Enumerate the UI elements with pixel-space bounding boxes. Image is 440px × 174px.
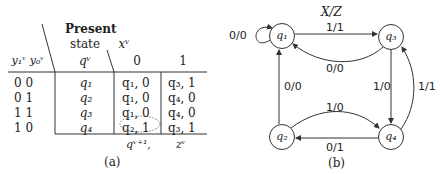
edge-label-q4-q2: 0/1 (326, 141, 344, 154)
node-q1-label: q₁ (272, 29, 292, 42)
edge-q3-q1 (293, 44, 383, 62)
edge-label-q3-q1: 0/0 (326, 62, 344, 75)
node-q2-label: q₂ (272, 130, 292, 143)
edge-label-q3-q4: 1/0 (373, 80, 391, 93)
edge-label-q2-q4: 1/0 (326, 101, 344, 114)
edge-label-q4-q3: 1/1 (418, 80, 436, 93)
node-q4-label: q₄ (381, 130, 401, 143)
edge-q4-q3 (401, 47, 414, 129)
edge-label-q1-q3: 1/1 (326, 21, 344, 34)
caption-b: (b) (328, 156, 345, 170)
node-q3-label: q₃ (381, 30, 401, 43)
edge-label-q2-q1: 0/0 (284, 80, 302, 93)
edge-label-q1-q1: 0/0 (229, 29, 247, 42)
diagram-title: X/Z (321, 5, 342, 19)
